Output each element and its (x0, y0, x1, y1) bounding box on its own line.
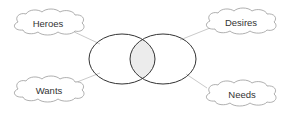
cloud-heroes: Heroes (14, 9, 84, 35)
connector-desires (180, 28, 210, 40)
cloud-label-needs: Needs (228, 89, 256, 100)
cloud-desires: Desires (206, 8, 276, 34)
cloud-label-desires: Desires (225, 17, 257, 28)
connector-needs (186, 74, 207, 88)
cloud-label-wants: Wants (36, 85, 63, 96)
cloud-wants: Wants (14, 76, 84, 102)
venn-diagram: Heroes Desires Wants Needs (0, 0, 288, 117)
cloud-label-heroes: Heroes (33, 18, 64, 29)
cloud-needs: Needs (206, 80, 276, 106)
